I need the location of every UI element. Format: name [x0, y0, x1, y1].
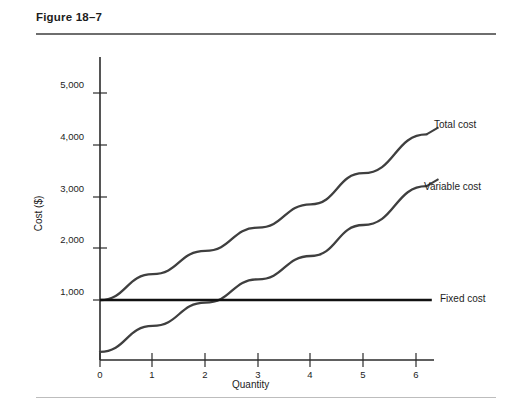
x-axis-title: Quantity [232, 379, 269, 390]
figure-container: Figure 18–7 [0, 0, 518, 419]
x-tick-label-2: 2 [195, 369, 215, 380]
figure-divider-bottom [36, 397, 496, 398]
variable-cost-line [100, 186, 427, 352]
series-label-total-cost: Total cost [434, 119, 476, 130]
series-label-fixed-cost: Fixed cost [440, 293, 486, 304]
x-tick-label-6: 6 [406, 369, 426, 380]
y-tick-label-1000: 1,000 [36, 286, 84, 297]
series-label-variable-cost: Variable cost [424, 181, 481, 192]
total-cost-line [100, 134, 427, 300]
cost-curves-chart [0, 0, 518, 419]
y-tick-label-5000: 5,000 [36, 79, 84, 90]
x-tick-label-1: 1 [142, 369, 162, 380]
x-tick-label-5: 5 [353, 369, 373, 380]
x-tick-label-4: 4 [300, 369, 320, 380]
y-axis-title: Cost ($) [33, 174, 44, 254]
y-tick-label-4000: 4,000 [36, 131, 84, 142]
x-tick-label-0: 0 [90, 369, 110, 380]
